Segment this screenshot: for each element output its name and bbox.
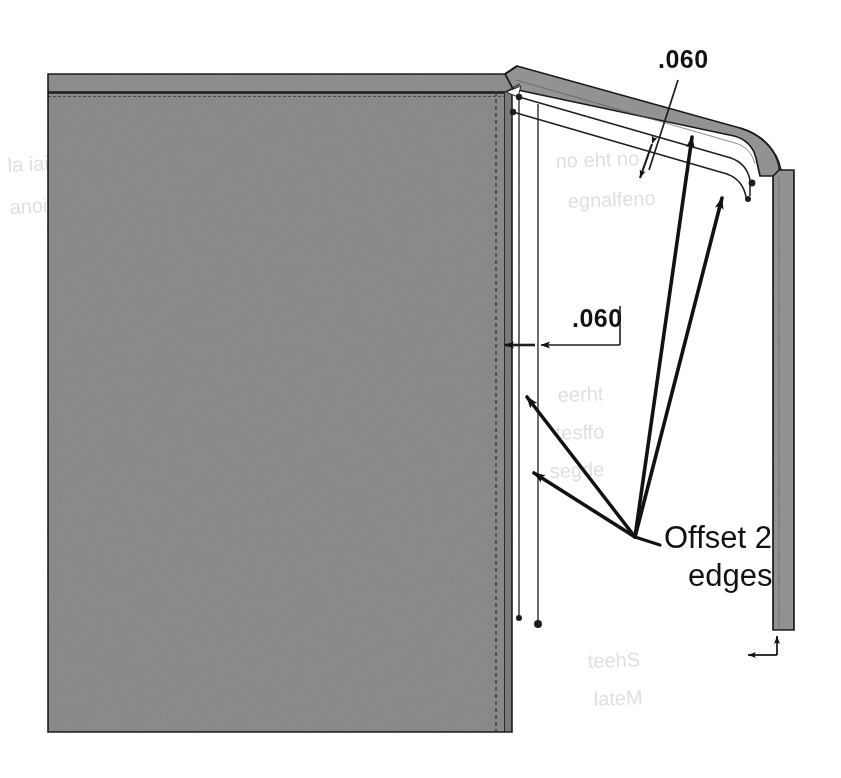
svg-text:egnalfeno: egnalfeno [567,187,656,212]
svg-text:teehS: teehS [587,648,640,672]
bottom-dimension-marker [748,636,777,655]
silhouette-vertical-lines [516,97,542,628]
offset-dimension-label: .060 [572,304,623,332]
offset-dimension-callout: .060 [505,304,623,345]
svg-text:eerht: eerht [557,382,604,406]
svg-text:lateM: lateM [593,686,643,710]
part-body-panel [48,74,512,732]
thickness-label-top: .060 [658,45,709,73]
offset-note-line-1: Offset 2 [664,520,772,555]
offset-note-line-2: edges [688,558,772,593]
svg-text:no eht no: no eht no [555,147,639,172]
technical-drawing-svg: la iairtion anoiti no eht no egnalfeno e… [0,0,841,778]
drawing-canvas: la iairtion anoiti no eht no egnalfeno e… [0,0,841,778]
note-leader-elbow [635,537,660,545]
offset-edges-note: Offset 2 edges [664,520,772,593]
